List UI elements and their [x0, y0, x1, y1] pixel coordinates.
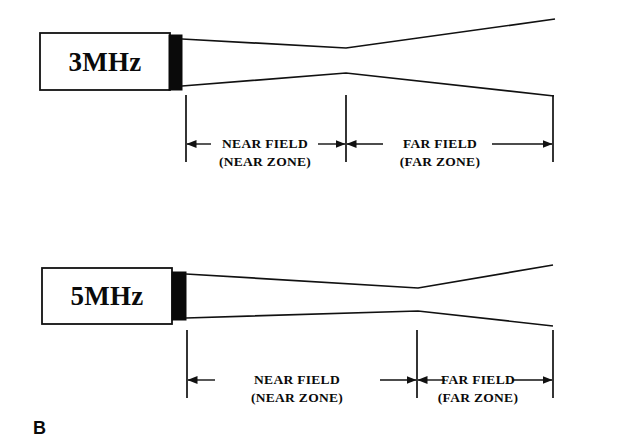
beam-lower-boundary-3mhz	[182, 73, 554, 96]
panel-5mhz: 5MHz NEAR FIELD (NEAR ZONE) FAR FIELD (F…	[42, 265, 553, 405]
panel-letter-label: B	[33, 418, 46, 438]
far-field-label-5mhz: FAR FIELD	[441, 372, 515, 387]
near-field-sublabel-5mhz: (NEAR ZONE)	[251, 390, 343, 405]
piezoelectric-element-5mhz	[172, 272, 186, 320]
far-field-sublabel-5mhz: (FAR ZONE)	[438, 390, 518, 405]
beam-upper-boundary-5mhz	[186, 265, 553, 288]
transducer-label-5mhz: 5MHz	[71, 281, 144, 311]
far-field-sublabel-3mhz: (FAR ZONE)	[400, 154, 480, 169]
transducer-label-3mhz: 3MHz	[69, 47, 142, 77]
beam-lower-boundary-5mhz	[186, 311, 553, 326]
diagram-canvas: 3MHz NEAR FIELD (NEAR ZONE) FAR FIELD (F…	[0, 0, 638, 445]
beam-profile-figure: 3MHz NEAR FIELD (NEAR ZONE) FAR FIELD (F…	[0, 0, 638, 445]
near-field-label-5mhz: NEAR FIELD	[254, 372, 340, 387]
near-field-sublabel-3mhz: (NEAR ZONE)	[219, 154, 311, 169]
beam-upper-boundary-3mhz	[182, 19, 555, 48]
panel-3mhz: 3MHz NEAR FIELD (NEAR ZONE) FAR FIELD (F…	[40, 19, 555, 169]
far-field-label-3mhz: FAR FIELD	[403, 136, 477, 151]
near-field-label-3mhz: NEAR FIELD	[222, 136, 308, 151]
piezoelectric-element-3mhz	[169, 35, 182, 90]
